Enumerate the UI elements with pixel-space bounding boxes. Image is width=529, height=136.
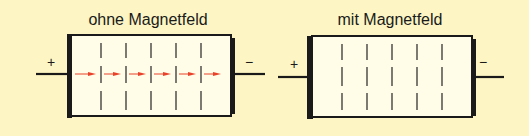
plus-sign: + <box>290 56 298 72</box>
minus-sign: − <box>479 54 487 70</box>
plus-sign: + <box>47 54 55 70</box>
diagram-with-field: mit Magnetfeld + − <box>278 11 504 119</box>
minus-sign: − <box>245 54 253 70</box>
diagram-title-without-field: ohne Magnetfeld <box>88 11 207 28</box>
diagram-stage: ohne Magnetfeld + − <box>0 0 529 136</box>
diagram-title-with-field: mit Magnetfeld <box>338 11 443 28</box>
negative-electrode <box>231 38 235 114</box>
diagram-without-field: ohne Magnetfeld + − <box>36 11 265 118</box>
negative-electrode <box>471 39 476 116</box>
positive-electrode <box>307 36 313 119</box>
positive-electrode <box>67 34 72 118</box>
